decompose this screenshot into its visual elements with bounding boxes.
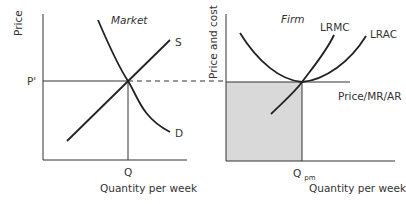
market-quantity-label: Q — [124, 166, 132, 178]
market-title: Market — [111, 14, 148, 26]
supply-curve — [67, 40, 170, 141]
supply-label: S — [175, 36, 182, 48]
lrmc-label: LRMC — [320, 21, 350, 33]
firm-x-axis-label: Quantity per week — [309, 182, 406, 194]
market-y-axis-label: Price — [12, 10, 24, 36]
lrac-label: LRAC — [370, 28, 397, 40]
market-price-label: P' — [27, 75, 36, 87]
firm-quantity-subscript: pm — [304, 174, 315, 182]
demand-label: D — [175, 127, 183, 139]
market-x-axis-label: Quantity per week — [100, 182, 198, 194]
perfect-competition-diagram: Market S D P' Q Quantity per week Price … — [0, 0, 406, 204]
lrac-curve — [240, 33, 366, 82]
firm-panel: Firm LRMC LRAC Price/MR/AR Qpm Quantity … — [207, 5, 406, 194]
firm-quantity-label: Qpm — [293, 167, 316, 182]
firm-title: Firm — [281, 13, 305, 25]
price-mr-ar-label: Price/MR/AR — [338, 90, 402, 102]
firm-quantity-letter: Q — [293, 167, 301, 179]
firm-y-axis-label: Price and cost — [207, 5, 219, 79]
market-panel: Market S D P' Q Quantity per week Price — [12, 10, 226, 194]
